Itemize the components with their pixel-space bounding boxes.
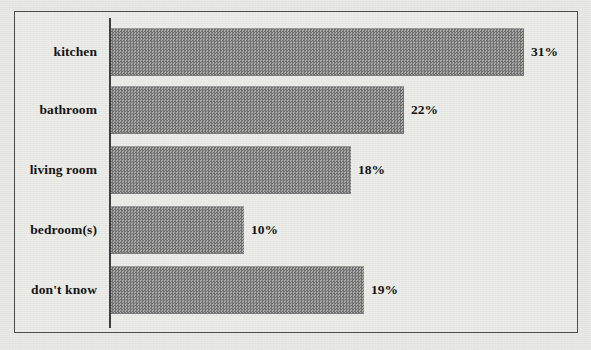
- bar-category-label: bedroom(s): [15, 206, 103, 254]
- bar-category-label: living room: [15, 146, 103, 194]
- chart-frame: kitchen 31% bathroom 22% living room 18%…: [14, 11, 578, 333]
- bar-track: 31%: [111, 28, 577, 76]
- bar-value-label: 31%: [524, 28, 558, 76]
- bar-value-label: 18%: [351, 146, 385, 194]
- bar-fill-bedrooms[interactable]: [111, 206, 244, 254]
- bar-row: bedroom(s) 10%: [15, 206, 577, 254]
- bar-row: don't know 19%: [15, 266, 577, 314]
- bar-fill-living-room[interactable]: [111, 146, 351, 194]
- bar-fill-dont-know[interactable]: [111, 266, 364, 314]
- bar-category-label: don't know: [15, 266, 103, 314]
- bar-fill-kitchen[interactable]: [111, 28, 524, 76]
- bar-track: 18%: [111, 146, 577, 194]
- bar-fill-bathroom[interactable]: [111, 86, 404, 134]
- bar-value-label: 10%: [244, 206, 278, 254]
- bar-track: 19%: [111, 266, 577, 314]
- bar-value-label: 19%: [364, 266, 398, 314]
- bar-row: kitchen 31%: [15, 28, 577, 76]
- bar-category-label: bathroom: [15, 86, 103, 134]
- bar-row: living room 18%: [15, 146, 577, 194]
- bar-category-label: kitchen: [15, 28, 103, 76]
- bar-value-label: 22%: [404, 86, 438, 134]
- bar-track: 10%: [111, 206, 577, 254]
- plot-area: kitchen 31% bathroom 22% living room 18%…: [15, 12, 577, 332]
- bar-row: bathroom 22%: [15, 86, 577, 134]
- bar-track: 22%: [111, 86, 577, 134]
